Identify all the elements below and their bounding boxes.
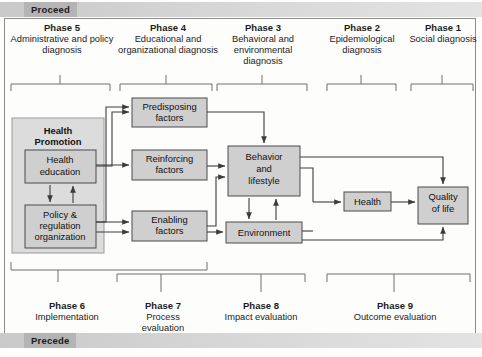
behavior-label-2: and — [256, 163, 272, 174]
precede-proceed-diagram: Proceed Phase 5 Administrative and polic… — [0, 0, 482, 357]
top-brackets — [11, 75, 473, 91]
arrow-predisposing-to-behavior — [207, 112, 264, 143]
behavior-label-1: Behavior — [245, 151, 282, 162]
arrow-enabling-to-behavior — [207, 177, 225, 226]
policy-label-3: organization — [34, 231, 85, 242]
health-education-label-2: education — [40, 166, 81, 177]
health-education-label-1: Health — [46, 154, 73, 165]
reinforcing-label-1: Reinforcing — [146, 153, 193, 164]
reinforcing-label-2: factors — [155, 164, 183, 175]
health-label: Health — [354, 196, 381, 207]
diagram-canvas: Health Promotion Health education Policy… — [0, 0, 482, 357]
policy-label-1: Policy & — [43, 209, 78, 220]
environment-label: Environment — [238, 227, 291, 238]
health-promotion-label-2: Promotion — [35, 136, 82, 147]
quality-label-1: Quality — [428, 191, 457, 202]
arrow-environment-to-quality-of-life — [302, 227, 443, 240]
enabling-label-1: Enabling — [151, 214, 188, 225]
precede-label: Precede — [24, 333, 76, 348]
precede-banner: Precede — [0, 333, 482, 348]
predisposing-label-1: Predisposing — [142, 101, 196, 112]
predisposing-label-2: factors — [155, 112, 183, 123]
enabling-label-2: factors — [155, 225, 183, 236]
health-promotion-label-1: Health — [44, 125, 73, 136]
behavior-label-3: lifestyle — [248, 175, 279, 186]
bottom-brackets — [11, 262, 470, 292]
arrow-behavior-to-quality-of-life — [300, 157, 443, 184]
policy-label-2: regulation — [39, 220, 80, 231]
quality-label-2: of life — [432, 203, 454, 214]
arrow-behavior-to-health — [300, 168, 313, 202]
